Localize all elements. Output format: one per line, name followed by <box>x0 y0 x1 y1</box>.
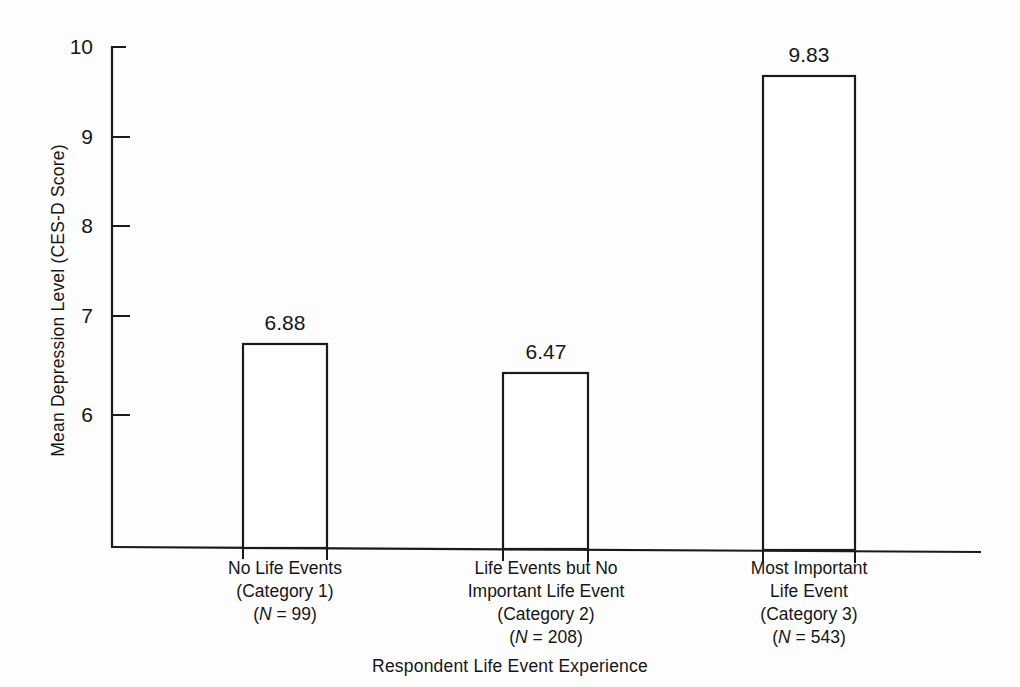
y-tick-label-10: 10 <box>63 36 93 57</box>
n-value-1: = 99) <box>272 604 317 624</box>
y-axis-title: Mean Depression Level (CES-D Score) <box>48 71 69 531</box>
x-axis-title: Respondent Life Event Experience <box>0 656 1020 677</box>
bar-category-3 <box>763 76 855 550</box>
bar-value-label-2: 6.47 <box>476 341 616 363</box>
n-value-3: = 543) <box>791 627 846 647</box>
bar-category-2 <box>503 373 588 549</box>
x-category-label-2: Life Events but No Important Life Event … <box>396 557 696 649</box>
x-category-label-1: No Life Events (Category 1) (N = 99) <box>135 557 435 626</box>
x-category-label-3: Most Important Life Event (Category 3) (… <box>659 557 959 649</box>
bar-category-1 <box>243 344 327 548</box>
category-2-line-4: (N = 208) <box>396 626 696 649</box>
n-symbol-3: N <box>778 627 791 647</box>
category-3-line-4: (N = 543) <box>659 626 959 649</box>
category-1-line-1: No Life Events <box>135 557 435 580</box>
category-2-line-2: Important Life Event <box>396 580 696 603</box>
category-1-line-2: (Category 1) <box>135 580 435 603</box>
bar-value-label-1: 6.88 <box>215 312 355 334</box>
category-3-line-2: Life Event <box>659 580 959 603</box>
category-2-line-1: Life Events but No <box>396 557 696 580</box>
y-tick-marks <box>112 47 130 415</box>
n-value-2: = 208) <box>528 627 583 647</box>
n-symbol-2: N <box>515 627 528 647</box>
category-2-line-3: (Category 2) <box>396 603 696 626</box>
chart-figure: 10 9 8 7 6 6.88 6.47 9.83 No Life Events… <box>0 0 1020 687</box>
category-3-line-3: (Category 3) <box>659 603 959 626</box>
n-symbol-1: N <box>259 604 272 624</box>
plot-area: 10 9 8 7 6 6.88 6.47 9.83 No Life Events… <box>0 0 1020 687</box>
category-1-line-3: (N = 99) <box>135 603 435 626</box>
category-3-line-1: Most Important <box>659 557 959 580</box>
bar-value-label-3: 9.83 <box>739 44 879 66</box>
